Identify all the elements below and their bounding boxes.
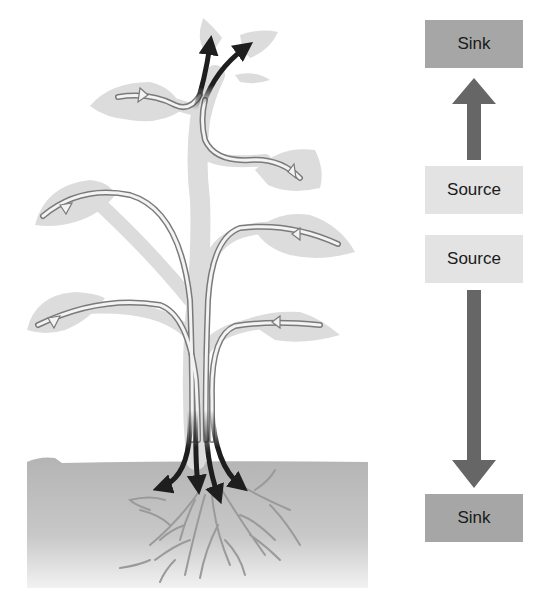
upward-flow-arrow-icon (450, 78, 498, 160)
leaf-apex-3 (235, 73, 270, 83)
lower-source-label: Source (425, 235, 523, 283)
upper-source-label: Source (425, 166, 523, 214)
stem (60, 75, 280, 460)
bottom-sink-label: Sink (425, 494, 523, 542)
leaf-apex-2 (240, 31, 278, 58)
leaf-mid-right (255, 214, 355, 258)
top-sink-label: Sink (425, 20, 523, 68)
plant-illustration (0, 0, 400, 590)
downward-flow-arrow-icon (450, 290, 498, 490)
